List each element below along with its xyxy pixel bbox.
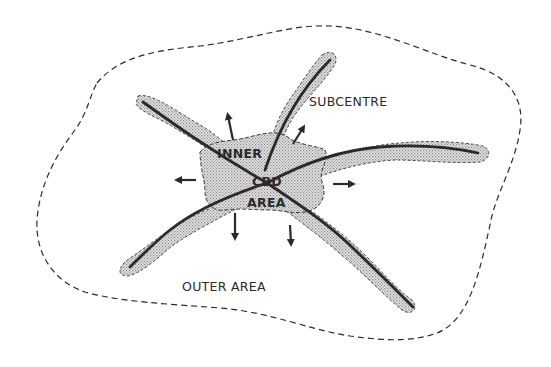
area-label: AREA [247, 195, 286, 210]
outer-area-label: OUTER AREA [182, 279, 266, 294]
arrow-up-left-icon [228, 116, 233, 140]
arrow-down-right-icon [290, 225, 291, 243]
subcentre-label: SUBCENTRE [309, 94, 387, 109]
arrow-up-right-icon [293, 128, 303, 144]
inner-label: INNER [217, 146, 262, 161]
cbd-label: CBD [252, 174, 282, 189]
